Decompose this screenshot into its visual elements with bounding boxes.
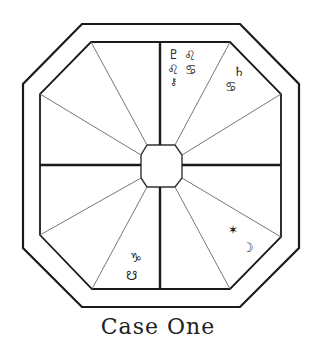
chart-caption: Case One — [0, 314, 316, 339]
chiron-glyph: ⚷ — [170, 77, 177, 87]
south-node-glyph: ☋ — [126, 269, 138, 282]
cancer-glyph-saturn: ♋ — [225, 80, 237, 93]
saturn-glyph: ♄ — [233, 65, 245, 78]
leo-glyph-2: ♌ — [167, 63, 179, 76]
leo-glyph: ♌ — [184, 49, 196, 62]
cancer-glyph: ♋ — [185, 63, 197, 76]
moon-glyph: ☽ — [242, 241, 254, 254]
center-octagon — [141, 145, 182, 187]
pluto-glyph: ♇ — [168, 48, 180, 61]
star-glyph: ✶ — [228, 224, 238, 236]
capricorn-glyph: ♑ — [130, 251, 142, 264]
horoscope-chart — [0, 0, 316, 351]
